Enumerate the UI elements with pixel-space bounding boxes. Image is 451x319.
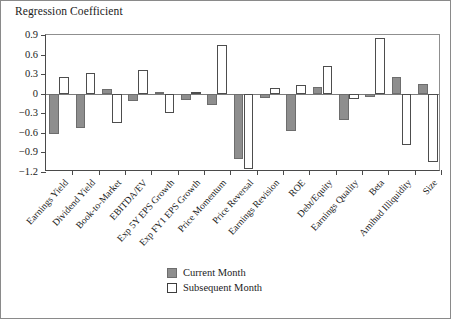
y-axis-tick-label: −0.3 (19, 108, 38, 119)
legend-swatch-current-month (167, 268, 177, 278)
bar-subsequent-month (191, 92, 201, 94)
legend-label-current-month: Current Month (183, 265, 246, 280)
bar-subsequent-month (323, 66, 333, 94)
bar-group (388, 35, 414, 170)
bar-current-month (392, 77, 402, 93)
figure-frame: Regression Coefficient 0.90.60.30−0.3−0.… (0, 0, 451, 319)
bar-current-month (155, 92, 165, 94)
y-axis-tick-label: −1.2 (19, 167, 38, 178)
bar-current-month (181, 94, 191, 100)
legend-swatch-subsequent-month (167, 283, 177, 293)
y-axis-tick-label: 0 (33, 88, 38, 99)
bar-subsequent-month (165, 94, 175, 113)
bar-current-month (49, 94, 59, 134)
bar-subsequent-month (375, 38, 385, 94)
y-axis-tick-label: 0.6 (25, 49, 38, 60)
y-axis-tick-label: 0.9 (25, 30, 38, 41)
x-axis-labels: Earnings YieldDividend YieldBook-to-Mark… (45, 177, 440, 257)
legend-item-current-month: Current Month (167, 265, 262, 280)
bar-current-month (128, 94, 138, 101)
bar-current-month (207, 94, 217, 105)
bar-current-month (365, 94, 375, 97)
legend-item-subsequent-month: Subsequent Month (167, 280, 262, 295)
bar-subsequent-month (296, 85, 306, 93)
chart-legend: Current Month Subsequent Month (167, 265, 262, 295)
chart-title: Regression Coefficient (15, 5, 123, 17)
y-axis-tick-label: −0.6 (19, 128, 38, 139)
bar-current-month (313, 87, 323, 94)
bar-group (46, 35, 72, 170)
bar-subsequent-month (112, 94, 122, 123)
bar-current-month (286, 94, 296, 131)
bar-subsequent-month (349, 94, 359, 99)
bar-subsequent-month (270, 88, 280, 94)
bar-current-month (260, 94, 270, 99)
y-axis-tick-label: −0.9 (19, 147, 38, 158)
y-axis-tick-label: 0.3 (25, 69, 38, 80)
legend-label-subsequent-month: Subsequent Month (183, 280, 262, 295)
bar-current-month (418, 84, 428, 94)
bar-group (309, 35, 335, 170)
bar-subsequent-month (59, 77, 69, 94)
bar-subsequent-month (402, 94, 412, 145)
bar-current-month (339, 94, 349, 120)
bar-subsequent-month (86, 73, 96, 94)
y-axis-tick (41, 172, 46, 173)
bar-current-month (76, 94, 86, 128)
bar-subsequent-month (138, 70, 148, 94)
bar-current-month (102, 89, 112, 94)
bar-subsequent-month (217, 45, 227, 93)
